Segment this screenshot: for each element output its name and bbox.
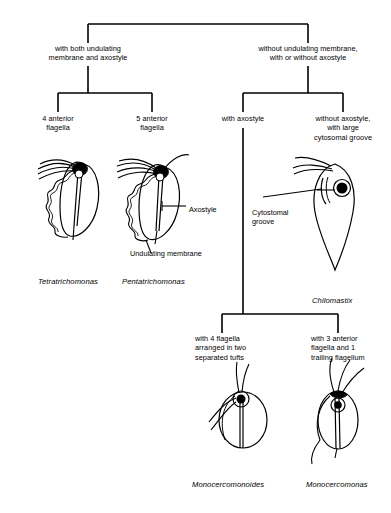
annotation-undulating-membrane: Undulating membrane — [130, 249, 202, 258]
annotation-axostyle: Axostyle — [189, 205, 217, 214]
annotation-cytostomal-groove: Cytostomal groove — [252, 208, 289, 227]
branch-label-level1-right: without undulating membrane, with or wit… — [231, 44, 385, 63]
organism-drawing-monocercomonas — [311, 358, 364, 464]
branch-label-4-flagella-two-tufts: with 4 flagella arranged in two separate… — [195, 334, 267, 362]
species-name-tetratrichomonas: Tetratrichomonas — [38, 277, 98, 286]
organism-drawing-tetratrichomonas — [38, 160, 99, 240]
branch-label-5-anterior-flagella: 5 anterior flagella — [117, 114, 187, 133]
diagram-canvas: with both undulating membrane and axosty… — [0, 0, 391, 513]
species-name-monocercomonoides: Monocercomonoides — [192, 480, 264, 489]
branch-label-4-anterior-flagella: 4 anterior flagella — [23, 114, 93, 133]
organism-drawing-pentatrichomonas — [117, 155, 189, 253]
organism-drawing-monocercomonoides — [209, 362, 267, 448]
species-name-pentatrichomonas: Pentatrichomonas — [122, 277, 185, 286]
branch-label-without-axostyle: without axostyle, with large cytosomal g… — [300, 114, 386, 142]
species-name-monocercomonas: Monocercomonas — [306, 480, 368, 489]
branch-label-with-axostyle: with axostyle — [208, 114, 278, 123]
branch-label-3-anterior-1-trailing: with 3 anterior flagella and 1 trailing … — [311, 334, 387, 362]
branch-label-level1-left: with both undulating membrane and axosty… — [25, 44, 151, 63]
species-name-chilomastix: Chilomastix — [312, 296, 352, 305]
